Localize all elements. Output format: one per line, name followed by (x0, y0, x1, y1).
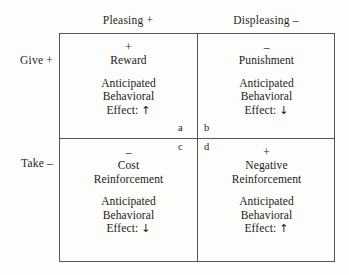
row-header-take: Take – (0, 157, 53, 169)
cell-c-title-line1: Cost (60, 159, 197, 173)
row-header-give: Give + (0, 54, 53, 66)
cell-b-title: Punishment (198, 54, 335, 68)
quadrant-cell-b: – Punishment Anticipated Behavioral Effe… (198, 34, 335, 138)
cell-b-sign: – (198, 41, 335, 54)
cell-a-effect-line1: Anticipated (60, 77, 197, 91)
cell-d-title-line1: Negative (198, 159, 335, 173)
cell-d-title-line2: Reinforcement (198, 173, 335, 187)
quadrant-label-b: b (204, 122, 209, 133)
arrow-down-icon: ↓ (141, 222, 150, 235)
cell-c-effect-line3: Effect: ↓ (60, 222, 197, 236)
arrow-up-icon: ↑ (141, 104, 150, 117)
cell-d-effect-line3: Effect: ↑ (198, 222, 335, 236)
cell-d-sign: + (198, 146, 335, 159)
matrix-box: + Reward Anticipated Behavioral Effect: … (59, 33, 335, 262)
cell-c-effect-line1: Anticipated (60, 195, 197, 209)
quadrant-cell-a: + Reward Anticipated Behavioral Effect: … (60, 34, 197, 138)
cell-b-effect-line2: Behavioral (198, 90, 335, 104)
cell-d-effect-line2: Behavioral (198, 209, 335, 223)
cell-c-effect-line2: Behavioral (60, 209, 197, 223)
cell-c-effect: Anticipated Behavioral Effect: ↓ (60, 195, 197, 236)
column-header-displeasing: Displeasing – (197, 14, 335, 26)
cell-d-title: Negative Reinforcement (198, 159, 335, 186)
cell-b-effect-line1: Anticipated (198, 77, 335, 91)
cell-a-effect-line3: Effect: ↑ (60, 104, 197, 118)
cell-c-title: Cost Reinforcement (60, 159, 197, 186)
column-header-pleasing: Pleasing + (59, 14, 197, 26)
cell-b-effect-line3: Effect: ↓ (198, 104, 335, 118)
cell-a-effect-label: Effect: (106, 104, 138, 116)
cell-d-effect-line1: Anticipated (198, 195, 335, 209)
quadrant-label-d: d (204, 141, 209, 152)
quadrant-label-c: c (178, 141, 183, 152)
cell-d-effect-label: Effect: (244, 222, 276, 234)
arrow-up-icon: ↑ (279, 222, 288, 235)
cell-a-title: Reward (60, 54, 197, 68)
cell-d-effect: Anticipated Behavioral Effect: ↑ (198, 195, 335, 236)
cell-a-sign: + (60, 41, 197, 54)
cell-c-sign: – (60, 146, 197, 159)
cell-c-effect-label: Effect: (106, 222, 138, 234)
arrow-down-icon: ↓ (279, 104, 288, 117)
cell-b-effect-label: Effect: (244, 104, 276, 116)
reinforcement-matrix-figure: Pleasing + Displeasing – Give + Take – +… (0, 0, 349, 275)
quadrant-cell-d: + Negative Reinforcement Anticipated Beh… (198, 139, 335, 243)
cell-b-effect: Anticipated Behavioral Effect: ↓ (198, 77, 335, 118)
quadrant-cell-c: – Cost Reinforcement Anticipated Behavio… (60, 139, 197, 243)
cell-c-title-line2: Reinforcement (60, 173, 197, 187)
cell-a-effect: Anticipated Behavioral Effect: ↑ (60, 77, 197, 118)
quadrant-label-a: a (178, 122, 183, 133)
cell-a-effect-line2: Behavioral (60, 90, 197, 104)
